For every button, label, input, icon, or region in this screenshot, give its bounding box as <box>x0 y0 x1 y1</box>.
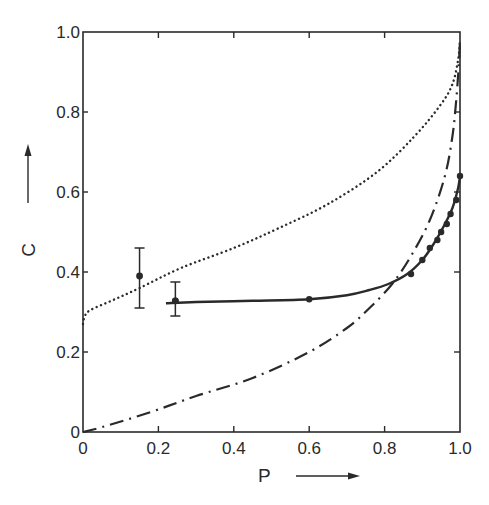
x-tick-label: 0.8 <box>373 439 397 458</box>
x-tick-label: 0.4 <box>222 439 246 458</box>
data-point <box>444 221 450 227</box>
errorbar-layer <box>135 248 181 316</box>
data-point <box>419 257 425 263</box>
plot-frame <box>83 32 460 432</box>
y-axis-label: C <box>18 243 39 257</box>
data-point <box>457 173 463 179</box>
error-bar <box>135 248 145 308</box>
y-tick-label: 0.2 <box>56 343 80 362</box>
y-tick-label: 1.0 <box>56 23 80 42</box>
data-point <box>438 229 444 235</box>
chart: 00.20.40.60.81.000.20.40.60.81.0 P C <box>0 0 489 505</box>
data-point <box>434 237 440 243</box>
data-point <box>408 271 414 277</box>
y-tick-label: 0.8 <box>56 103 80 122</box>
x-axis-label: P <box>258 465 271 486</box>
series-layer <box>83 40 460 432</box>
error-bar <box>170 282 180 316</box>
y-axis-arrowhead-icon <box>25 144 32 156</box>
y-tick-label: 0 <box>71 423 80 442</box>
ticks-layer: 00.20.40.60.81.000.20.40.60.81.0 <box>56 23 471 458</box>
data-point <box>447 211 453 217</box>
marker-layer <box>172 173 463 304</box>
x-tick-label: 0.6 <box>297 439 321 458</box>
plot-area <box>83 32 460 432</box>
data-point <box>427 245 433 251</box>
solid-curve <box>166 176 460 303</box>
x-axis-arrowhead-icon <box>348 473 360 480</box>
data-point <box>453 197 459 203</box>
x-tick-label: 0.2 <box>147 439 171 458</box>
y-tick-label: 0.6 <box>56 183 80 202</box>
x-tick-label: 1.0 <box>448 439 472 458</box>
dash-dot-curve <box>83 40 460 432</box>
data-point <box>306 296 312 302</box>
y-tick-label: 0.4 <box>56 263 80 282</box>
